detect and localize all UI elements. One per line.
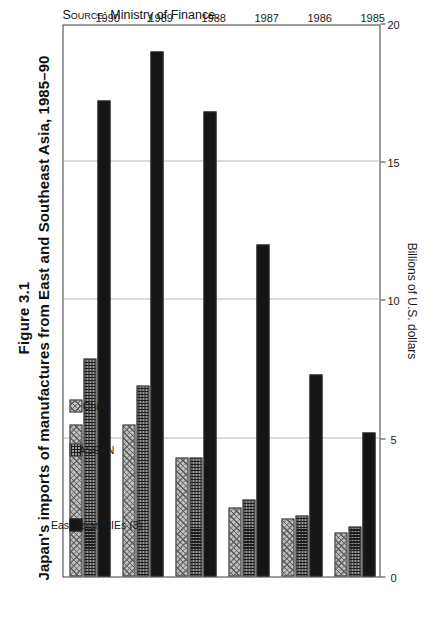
legend-label-asean: ASEAN [78, 443, 114, 455]
bar-nies-1987 [256, 244, 270, 576]
bar-china-1987 [228, 507, 242, 576]
legend-swatch-china [69, 399, 82, 412]
bar-nies-1985 [362, 432, 376, 576]
category-label-1985: 1985 [360, 11, 384, 23]
bar-nies-1988 [203, 111, 217, 576]
bar-nies-1989 [150, 51, 164, 576]
bar-group-1988 [169, 25, 222, 576]
axis-tick-label-20: 20 [387, 18, 399, 30]
legend-item-china: China [69, 392, 102, 419]
bar-group-1987 [222, 25, 275, 576]
bar-china-1988 [175, 457, 189, 576]
title-block: Figure 3.1 Japan's imports of manufactur… [0, 0, 51, 635]
source-note: Source: Ministry of Finance. [62, 7, 218, 21]
axis-tick-15 [380, 161, 385, 162]
page-title: Japan's imports of manufactures from Eas… [34, 0, 51, 635]
value-axis: 05101520 [380, 24, 381, 577]
axis-tick-10 [380, 300, 385, 301]
plot-area: East Asian NIEs (3)ASEANChina [62, 24, 380, 577]
legend: East Asian NIEs (3)ASEANChina [69, 392, 102, 570]
source-label: Source: [62, 7, 106, 21]
bar-china-1989 [122, 424, 136, 576]
bar-asean-1987 [242, 499, 256, 576]
figure-stage: Figure 3.1 Japan's imports of manufactur… [0, 0, 437, 635]
bar-nies-1986 [309, 374, 323, 576]
bar-asean-1989 [136, 385, 150, 576]
legend-item-asean: ASEAN [69, 431, 102, 467]
figure-number: Figure 3.1 [14, 0, 31, 635]
legend-label-nies: East Asian NIEs (3) [50, 518, 141, 530]
bar-group-1989 [116, 25, 169, 576]
category-label-1987: 1987 [254, 11, 278, 23]
axis-tick-label-5: 5 [390, 433, 396, 445]
source-value: Ministry of Finance. [106, 7, 218, 21]
axis-tick-label-0: 0 [390, 571, 396, 583]
bar-asean-1985 [348, 526, 362, 576]
axis-tick-label-15: 15 [387, 156, 399, 168]
bar-china-1986 [281, 518, 295, 576]
bar-group-1986 [275, 25, 328, 576]
bar-asean-1986 [295, 515, 309, 576]
legend-label-china: China [82, 400, 109, 412]
bar-china-1985 [334, 532, 348, 576]
category-label-1986: 1986 [307, 11, 331, 23]
axis-title: Billions of U.S. dollars [404, 24, 418, 577]
axis-tick-label-10: 10 [387, 295, 399, 307]
axis-tick-0 [380, 576, 385, 577]
axis-tick-5 [380, 438, 385, 439]
bar-asean-1988 [189, 457, 203, 576]
bar-group-1985 [328, 25, 381, 576]
legend-item-nies: East Asian NIEs (3) [69, 479, 102, 570]
